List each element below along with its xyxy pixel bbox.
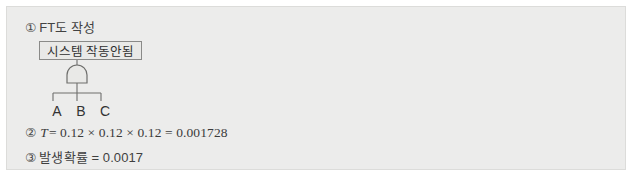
step-2-formula: ②T= 0.12 × 0.12 × 0.12 = 0.001728 <box>25 125 228 141</box>
input-label-b: B <box>73 103 89 119</box>
fault-tree-diagram: 시스템 작동안됨 A B C <box>25 37 185 123</box>
step-1-marker: ① <box>25 20 36 35</box>
step-3-text: 발생확률 = 0.0017 <box>39 150 143 165</box>
step-2-variable: T <box>39 125 49 140</box>
step-1-text: FT도 작성 <box>39 20 95 35</box>
answer-figure-root: ①FT도 작성 시스템 작동안됨 A B <box>0 0 640 183</box>
input-label-c: C <box>97 103 113 119</box>
answer-panel: ①FT도 작성 시스템 작동안됨 A B <box>6 6 626 170</box>
step-3-result: ③발생확률 = 0.0017 <box>25 147 143 166</box>
input-label-a: A <box>49 103 65 119</box>
step-2-expression: = 0.12 × 0.12 × 0.12 = 0.001728 <box>49 125 228 140</box>
step-3-marker: ③ <box>25 150 36 165</box>
step-1-heading: ①FT도 작성 <box>25 17 95 36</box>
and-gate-shape <box>67 65 87 83</box>
step-2-marker: ② <box>25 125 36 140</box>
